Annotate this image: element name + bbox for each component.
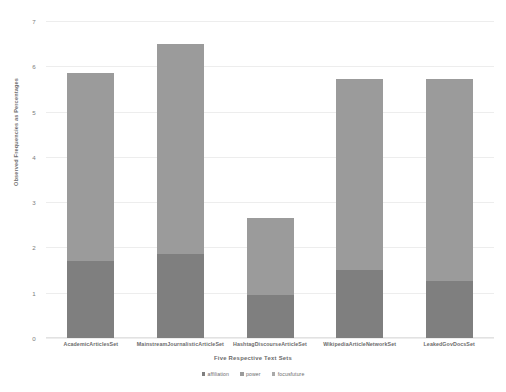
legend-label: affiliation <box>208 371 229 377</box>
legend-item[interactable]: affiliation <box>202 371 229 377</box>
x-axis-tick-label: LeakedGovDocsSet <box>424 341 475 347</box>
legend-item[interactable]: focusfuture <box>272 371 305 377</box>
y-axis-tick-label: 1 <box>14 289 36 296</box>
bar-stack[interactable] <box>67 73 114 338</box>
legend-swatch-icon <box>240 372 244 376</box>
plot-area <box>46 21 494 338</box>
x-axis-tick-label: AcademicArticlesSet <box>63 341 118 347</box>
bar-stack[interactable] <box>426 79 473 338</box>
y-axis-title: Observed Frequencies as Percentages <box>13 22 19 242</box>
y-axis-tick-label: 0 <box>14 335 36 342</box>
x-axis-tick-label: HashtagDiscourseArticleSet <box>233 341 307 347</box>
bar-stack[interactable] <box>247 218 294 338</box>
bars-layer <box>46 21 494 338</box>
x-axis-labels: AcademicArticlesSetMainstreamJournalisti… <box>46 341 494 355</box>
bar-segment-affiliation[interactable] <box>336 270 383 338</box>
bar-segment-power[interactable] <box>247 218 294 295</box>
legend-label: power <box>246 371 261 377</box>
bar-segment-power[interactable] <box>336 79 383 270</box>
bar-stack[interactable] <box>336 79 383 338</box>
bar-segment-power[interactable] <box>426 79 473 281</box>
chart-legend: affiliationpowerfocusfuture <box>0 371 506 377</box>
bar-segment-power[interactable] <box>157 44 204 255</box>
bar-chart: 01234567 Observed Frequencies as Percent… <box>0 0 506 392</box>
bar-segment-affiliation[interactable] <box>247 295 294 338</box>
x-axis-tick-label: MainstreamJournalisticArticleSet <box>137 341 224 347</box>
legend-swatch-icon <box>202 372 206 376</box>
bar-stack[interactable] <box>157 44 204 338</box>
bar-segment-affiliation[interactable] <box>157 254 204 338</box>
legend-label: focusfuture <box>278 371 305 377</box>
gridline <box>46 338 494 339</box>
legend-item[interactable]: power <box>240 371 261 377</box>
y-axis-tick-label: 2 <box>14 244 36 251</box>
bar-segment-affiliation[interactable] <box>67 261 114 338</box>
x-axis-tick-label: WikipediaArticleNetworkSet <box>323 341 396 347</box>
bar-segment-power[interactable] <box>67 73 114 261</box>
bar-segment-affiliation[interactable] <box>426 281 473 338</box>
x-axis-title: Five Respective Text Sets <box>0 355 506 361</box>
legend-swatch-icon <box>272 372 276 376</box>
